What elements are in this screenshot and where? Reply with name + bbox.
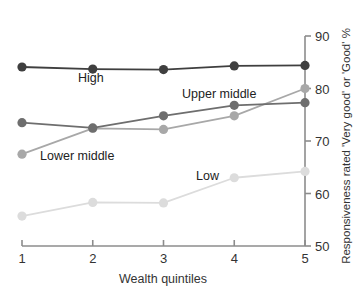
series-annotation-upper-middle: Upper middle (182, 87, 256, 101)
data-point (230, 61, 239, 70)
y-tick-label-90: 90 (315, 29, 329, 44)
data-point (159, 125, 168, 134)
y-tick-label-70: 70 (315, 134, 329, 149)
y-tick-label-60: 60 (315, 187, 329, 202)
data-point (300, 61, 309, 70)
data-point (17, 211, 26, 220)
x-tick-label-1: 1 (18, 251, 25, 266)
line-chart: 1 2 3 4 5 90 80 70 60 50 Wealth quintile… (0, 0, 358, 293)
series-line (22, 171, 305, 216)
data-point (17, 62, 26, 71)
series-annotation-lower-middle: Lower middle (40, 149, 114, 163)
data-point (230, 101, 239, 110)
data-point (88, 198, 97, 207)
y-tick-label-80: 80 (315, 82, 329, 97)
data-point (300, 98, 309, 107)
series-line (22, 89, 305, 155)
data-point (159, 111, 168, 120)
series-annotation-high: High (78, 71, 104, 85)
y-axis-title: Responsiveness rated 'Very good' or 'Goo… (340, 28, 352, 264)
data-point (17, 118, 26, 127)
data-point (230, 173, 239, 182)
series-lower-middle (17, 84, 309, 159)
series-annotation-low: Low (196, 169, 220, 183)
x-axis-title: Wealth quintiles (119, 272, 207, 286)
data-point (88, 123, 97, 132)
data-point (17, 150, 26, 159)
x-tick-labels: 1 2 3 4 5 (18, 251, 308, 266)
x-tick-label-5: 5 (301, 251, 308, 266)
x-tick-label-2: 2 (89, 251, 96, 266)
series-high (17, 61, 309, 74)
data-point (300, 167, 309, 176)
series-layer (17, 61, 309, 221)
x-tick-label-3: 3 (160, 251, 167, 266)
data-point (300, 84, 309, 93)
data-point (159, 198, 168, 207)
y-tick-labels: 90 80 70 60 50 (315, 29, 329, 254)
data-point (230, 111, 239, 120)
series-low (17, 167, 309, 221)
data-point (159, 65, 168, 74)
x-tick-label-4: 4 (231, 251, 238, 266)
chart-container: 1 2 3 4 5 90 80 70 60 50 Wealth quintile… (0, 0, 358, 293)
y-tick-label-50: 50 (315, 239, 329, 254)
